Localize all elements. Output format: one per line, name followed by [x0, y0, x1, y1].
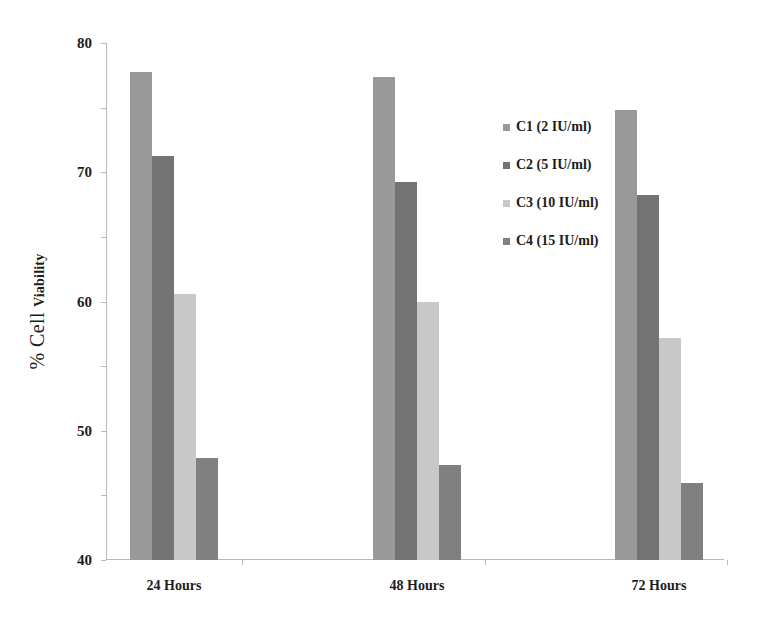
y-tick-label: 60	[77, 293, 92, 310]
bar	[373, 77, 395, 560]
bar	[439, 465, 461, 560]
legend-label: C2 (5 IU/ml)	[516, 157, 591, 173]
x-tick-mark	[242, 560, 243, 565]
legend-label: C4 (15 IU/ml)	[516, 233, 598, 249]
y-axis-title-sub: Viability	[33, 253, 49, 306]
bar	[395, 182, 417, 560]
y-tick-label: 40	[77, 552, 92, 569]
bar	[659, 338, 681, 560]
legend-swatch-icon	[503, 162, 510, 169]
bar-group: 24 Hours	[130, 43, 218, 560]
legend-item[interactable]: C2 (5 IU/ml)	[503, 146, 673, 184]
bar	[417, 302, 439, 560]
y-tick-mark: 70	[101, 108, 106, 109]
y-tick-mark: 0	[101, 560, 106, 561]
y-axis-title-main: % Cell	[27, 312, 50, 369]
legend-swatch-icon	[503, 238, 510, 245]
legend-label: C3 (10 IU/ml)	[516, 195, 598, 211]
x-tick-mark	[727, 560, 728, 565]
bar	[174, 294, 196, 560]
cell-viability-bar-chart: % Cell Viability 01020304050607080 24 Ho…	[0, 0, 763, 622]
y-tick-mark: 10	[101, 495, 106, 496]
y-axis-title: % Cell Viability	[8, 0, 68, 622]
y-axis-line	[106, 43, 107, 560]
y-tick-label: 70	[77, 164, 92, 181]
legend-item[interactable]: C4 (15 IU/ml)	[503, 222, 673, 260]
y-tick-mark: 50	[101, 237, 106, 238]
bar	[196, 458, 218, 560]
chart-legend: C1 (2 IU/ml)C2 (5 IU/ml)C3 (10 IU/ml)C4 …	[503, 108, 673, 260]
y-tick-mark: 40	[101, 302, 106, 303]
x-axis-group-label: 72 Hours	[632, 578, 687, 594]
bar	[152, 156, 174, 560]
y-tick-mark: 80	[101, 43, 106, 44]
bar-group: 48 Hours	[373, 43, 461, 560]
legend-swatch-icon	[503, 200, 510, 207]
bar	[681, 483, 703, 560]
y-tick-mark: 30	[101, 366, 106, 367]
x-axis-group-label: 48 Hours	[390, 578, 445, 594]
y-tick-mark: 60	[101, 172, 106, 173]
legend-swatch-icon	[503, 124, 510, 131]
legend-label: C1 (2 IU/ml)	[516, 119, 591, 135]
y-tick-mark: 20	[101, 431, 106, 432]
bar	[130, 72, 152, 560]
legend-item[interactable]: C3 (10 IU/ml)	[503, 184, 673, 222]
y-tick-label: 50	[77, 422, 92, 439]
x-axis-group-label: 24 Hours	[147, 578, 202, 594]
x-tick-mark	[485, 560, 486, 565]
legend-item[interactable]: C1 (2 IU/ml)	[503, 108, 673, 146]
y-tick-label: 80	[77, 35, 92, 52]
